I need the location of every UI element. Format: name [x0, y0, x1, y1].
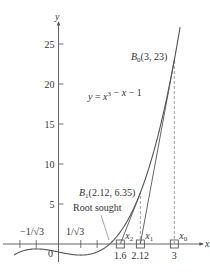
- x-axis-label: x: [204, 238, 210, 249]
- function-label: y = x3 − x − 1: [87, 87, 142, 102]
- x-point-value-label: 2.12: [132, 250, 150, 261]
- x-point-value-label: 3: [172, 250, 177, 261]
- x-point-name-label: x2: [124, 230, 133, 243]
- x-tick-label-neg-inv-sqrt3: −1/√3: [20, 226, 44, 237]
- axes: x y: [3, 11, 210, 262]
- x-marked-points: 1.6x22.12x13x0: [114, 230, 188, 261]
- y-tick-label: 10: [45, 159, 55, 170]
- point-label-b1: B1(2.12, 6.35): [79, 187, 135, 200]
- y-axis-label: y: [54, 11, 60, 22]
- x-tick-label-inv-sqrt3: 1/√3: [66, 226, 84, 237]
- y-tick-label: 20: [45, 79, 55, 90]
- y-tick-label: 25: [45, 39, 55, 50]
- root-sought-leader: [101, 215, 109, 240]
- origin-label: 0: [48, 248, 53, 259]
- x-point-name-label: x0: [178, 230, 187, 243]
- root-sought-label: Root sought: [73, 202, 122, 213]
- point-label-b0: B0(3, 23): [131, 51, 167, 64]
- y-tick-label: 5: [50, 199, 55, 210]
- y-ticks: 510152025: [45, 39, 64, 210]
- secant-method-chart: x y 510152025 1.6x22.12x13x0 y = x3 − x …: [0, 0, 210, 276]
- x-point-name-label: x1: [144, 230, 153, 243]
- x-point-value-label: 1.6: [114, 250, 127, 261]
- y-tick-label: 15: [45, 119, 55, 130]
